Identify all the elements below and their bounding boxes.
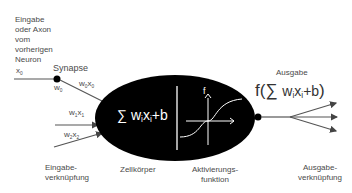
label-line: Ausgabe- — [290, 163, 350, 173]
label-line: verknüpfung — [45, 173, 89, 183]
label-line: Neuron — [15, 55, 53, 65]
cell-sum-formula: ∑ wixi+b — [117, 107, 168, 124]
label-line: vom — [15, 35, 53, 45]
weighted-input-0-label: w0x0 — [79, 79, 94, 92]
output-junction-label: Ausgabe- verknüpfung — [290, 163, 350, 183]
label-line: verknüpfung — [290, 173, 350, 183]
label-line: funktion — [185, 175, 245, 185]
synapse-label: Synapse — [53, 63, 88, 73]
weighted-input-2-label: w2x2 — [64, 130, 79, 143]
input-source-label: Eingabe oder Axon vom vorherigen Neuron — [15, 15, 53, 65]
label-line: Aktivierungs- — [185, 165, 245, 175]
output-arrow-2 — [290, 117, 336, 131]
weighted-input-1-label: w1x1 — [69, 108, 84, 121]
synapse-node — [54, 76, 61, 83]
activation-f-label: f — [203, 86, 206, 96]
axon-node — [255, 114, 262, 121]
input-junction-label: Eingabe- verknüpfung — [45, 163, 89, 183]
label-line: Eingabe- — [45, 163, 89, 173]
label-line: vorherigen — [15, 45, 53, 55]
activation-function-label: Aktivierungs- funktion — [185, 165, 245, 185]
output-arrow-0 — [290, 103, 336, 117]
cell-body-label: Zellkörper — [120, 165, 156, 175]
output-formula: f(∑ wixi+b) — [255, 81, 325, 101]
output-label: Ausgabe — [276, 68, 308, 78]
label-line: Eingabe — [15, 15, 53, 25]
label-line: oder Axon — [15, 25, 53, 35]
input-x0-label: x0 — [16, 66, 23, 79]
weight-w0-label: w0 — [54, 83, 62, 96]
